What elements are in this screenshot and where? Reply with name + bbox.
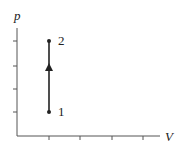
y-ticks <box>13 41 17 112</box>
x-axis-label: V <box>165 129 175 144</box>
y-axis-label: p <box>13 8 21 23</box>
x-ticks <box>49 136 143 140</box>
point-1-label: 1 <box>58 104 65 119</box>
axes <box>17 28 160 136</box>
arrow-up-icon <box>45 63 53 71</box>
point-2 <box>47 39 51 43</box>
pv-diagram: p V 2 1 <box>0 0 187 152</box>
point-1 <box>47 110 51 114</box>
point-2-label: 2 <box>58 33 65 48</box>
